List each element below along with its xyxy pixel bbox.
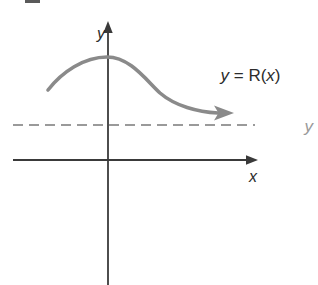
x-axis-group bbox=[13, 155, 258, 165]
curve-label-group: y = R(x) bbox=[178, 66, 314, 85]
asymptote-label-group: y = L bbox=[262, 117, 318, 136]
y-axis-label: y bbox=[96, 25, 106, 42]
figure-canvas: y x y = R(x) y = L bbox=[0, 0, 318, 285]
curve-label-function: R bbox=[248, 66, 260, 85]
asymptote-label-equals: = bbox=[313, 117, 318, 136]
graph-svg: y x y = R(x) y = L bbox=[0, 0, 318, 285]
curve-label: y = R(x) bbox=[178, 66, 314, 85]
x-axis-label: x bbox=[248, 168, 258, 185]
curve-label-variable: x bbox=[265, 66, 275, 85]
asymptote-label: y = L bbox=[262, 117, 318, 136]
x-axis-arrowhead bbox=[246, 155, 258, 165]
y-axis-group bbox=[103, 21, 112, 285]
curve-label-equals: = bbox=[229, 66, 248, 85]
curve-label-close-paren: ) bbox=[275, 66, 281, 85]
